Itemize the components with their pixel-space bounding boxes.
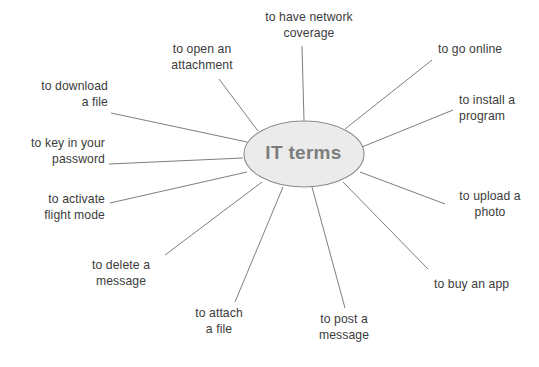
- mind-map-canvas: IT terms to have network coverageto open…: [0, 0, 539, 367]
- branch-label-go-online[interactable]: to go online: [438, 42, 526, 58]
- branch-label-download-a-file[interactable]: to download a file: [36, 79, 108, 110]
- spoke-line-install-a-program: [362, 110, 453, 147]
- spoke-line-upload-a-photo: [360, 172, 445, 204]
- spoke-line-post-a-message: [312, 187, 345, 308]
- branch-label-buy-an-app[interactable]: to buy an app: [434, 277, 526, 293]
- branch-label-activate-flight-mode[interactable]: to activate flight mode: [27, 192, 105, 223]
- branch-label-open-an-attachment[interactable]: to open an attachment: [150, 42, 254, 73]
- spoke-line-activate-flight-mode: [110, 172, 247, 203]
- branch-label-post-a-message[interactable]: to post a message: [306, 312, 382, 343]
- branch-label-key-in-your-password[interactable]: to key in your password: [21, 136, 105, 167]
- spoke-line-key-in-your-password: [109, 158, 243, 164]
- branch-label-attach-a-file[interactable]: to attach a file: [183, 306, 255, 337]
- branch-label-have-network-coverage[interactable]: to have network coverage: [242, 10, 376, 41]
- spoke-line-download-a-file: [111, 113, 247, 142]
- spoke-line-delete-a-message: [165, 182, 262, 255]
- branch-label-upload-a-photo[interactable]: to upload a photo: [451, 189, 529, 220]
- center-node[interactable]: IT terms: [242, 119, 366, 189]
- spoke-line-have-network-coverage: [302, 46, 304, 121]
- center-node-label: IT terms: [265, 142, 341, 164]
- spoke-line-buy-an-app: [343, 182, 428, 269]
- branch-label-install-a-program[interactable]: to install a program: [459, 93, 531, 124]
- branch-label-delete-a-message[interactable]: to delete a message: [79, 258, 163, 289]
- spoke-line-attach-a-file: [235, 187, 283, 302]
